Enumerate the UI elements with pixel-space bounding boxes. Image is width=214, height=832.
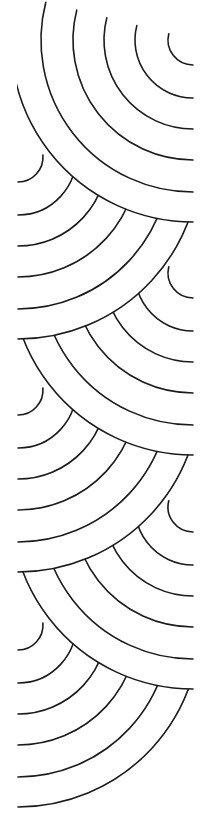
arc-line — [73, 477, 193, 627]
arc-line — [168, 267, 193, 298]
arc-line — [18, 150, 107, 246]
arc-line — [104, 18, 193, 129]
arc-line — [18, 618, 107, 714]
arc-line — [18, 388, 43, 415]
arc-set-left — [18, 610, 200, 807]
arc-line — [18, 152, 76, 215]
arc-line — [135, 259, 193, 331]
arc-line — [18, 385, 76, 448]
arc-line — [135, 26, 193, 98]
arc-line — [18, 623, 43, 650]
arc-line — [18, 620, 76, 683]
arc-line — [168, 34, 193, 65]
arc-line — [18, 383, 107, 479]
arc-line — [73, 243, 193, 393]
scale-pattern — [0, 0, 214, 832]
arc-line — [73, 10, 193, 160]
arc-line — [168, 501, 193, 532]
arc-line — [104, 485, 193, 596]
arc-line — [18, 155, 43, 182]
arc-line — [104, 251, 193, 362]
arc-line — [18, 610, 200, 807]
arc-line — [135, 493, 193, 565]
